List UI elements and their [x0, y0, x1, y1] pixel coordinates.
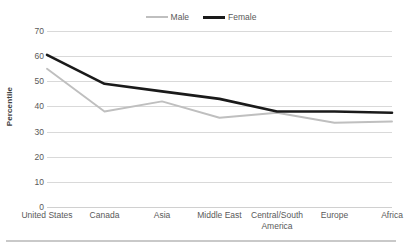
- y-axis-tick-label: 50: [35, 77, 44, 86]
- legend-swatch-male-icon: [146, 16, 168, 18]
- y-axis-tick-label: 10: [35, 178, 44, 187]
- footer-divider: [6, 240, 396, 242]
- chart-legend: Male Female: [0, 9, 402, 25]
- legend-item-female[interactable]: Female: [203, 13, 256, 22]
- legend-item-male[interactable]: Male: [146, 13, 189, 22]
- legend-label-female: Female: [228, 13, 256, 22]
- series-layer: [47, 31, 392, 207]
- x-axis-tick-label: Europe: [302, 210, 368, 221]
- x-axis-tick-label: Africa: [359, 210, 408, 221]
- series-line-female: [47, 55, 392, 113]
- x-axis-tick-label: Middle East: [187, 210, 253, 221]
- y-axis-tick-label: 30: [35, 127, 44, 136]
- y-axis-title-label: Percentile: [6, 86, 15, 125]
- x-axis-tick-label: Central/South America: [244, 210, 310, 231]
- y-axis-tick-label: 70: [35, 27, 44, 36]
- y-axis-tick-label: 40: [35, 102, 44, 111]
- y-axis-title: Percentile: [2, 0, 18, 212]
- y-axis-tick-label: 60: [35, 52, 44, 61]
- series-line-male: [47, 69, 392, 123]
- x-axis-tick-label: Canada: [72, 210, 138, 221]
- x-axis-tick-label: Asia: [129, 210, 195, 221]
- legend-swatch-female-icon: [203, 16, 225, 19]
- plot-area: [47, 31, 392, 207]
- gridline: [47, 207, 392, 208]
- legend-label-male: Male: [171, 13, 189, 22]
- y-axis-tick-labels: 706050403020100: [18, 31, 44, 207]
- y-axis-tick-label: 20: [35, 152, 44, 161]
- x-axis-tick-label: United States: [14, 210, 80, 221]
- x-axis-tick-labels: United StatesCanadaAsiaMiddle EastCentra…: [47, 210, 392, 240]
